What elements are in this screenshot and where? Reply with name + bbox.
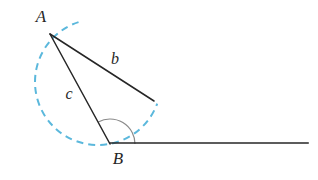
side-label-c: c <box>65 85 72 102</box>
side-label-b: b <box>111 50 119 67</box>
geometry-figure: A B b c <box>0 0 318 180</box>
figure-canvas: A B b c <box>0 0 318 180</box>
vertex-label-B: B <box>113 149 124 168</box>
side-c-segment <box>50 34 110 144</box>
vertex-label-A: A <box>35 7 47 26</box>
